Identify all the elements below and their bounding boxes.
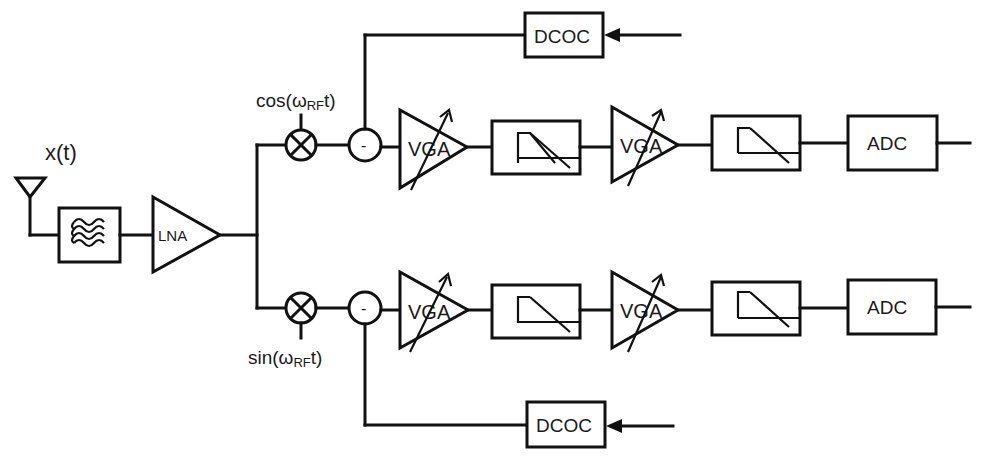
input-signal-label: x(t): [45, 140, 77, 165]
bandpass-filter-block: [59, 208, 120, 262]
i-dcoc-block: DCOC: [525, 13, 603, 57]
svg-text:-: -: [361, 137, 366, 154]
q-branch: sin(ωRFt) - DCOC VGA: [248, 272, 970, 447]
q-subtractor: -: [349, 292, 381, 324]
svg-text:VGA: VGA: [408, 138, 451, 160]
q-lowpass-filter-2: [712, 282, 800, 335]
i-mixer-icon: [286, 130, 316, 160]
i-adc-block: ADC: [848, 116, 937, 170]
q-lo-label: sin(ωRFt): [248, 347, 322, 370]
svg-text:ADC: ADC: [867, 297, 907, 318]
svg-text:-: -: [361, 300, 366, 317]
lna-amplifier: LNA: [153, 197, 220, 272]
i-vga2-amplifier: VGA: [612, 107, 678, 186]
q-dcoc-block: DCOC: [527, 402, 605, 447]
q-dcoc-input-arrow-icon: [606, 419, 673, 433]
antenna-icon: [16, 178, 58, 235]
i-dcoc-input-arrow-icon: [604, 28, 680, 42]
q-lowpass-filter-1: [492, 285, 580, 338]
svg-text:DCOC: DCOC: [536, 415, 592, 436]
lna-label: LNA: [158, 227, 187, 244]
i-vga1-amplifier: VGA: [400, 110, 467, 190]
svg-text:ADC: ADC: [867, 133, 907, 154]
i-lo-label: cos(ωRFt): [256, 90, 336, 113]
i-lowpass-filter-2: [712, 116, 800, 170]
q-vga1-amplifier: VGA: [400, 272, 468, 352]
i-lowpass-filter-1: [492, 121, 580, 174]
q-mixer-icon: [286, 293, 316, 323]
svg-text:VGA: VGA: [620, 300, 663, 322]
i-branch: cos(ωRFt) - DCOC VGA: [256, 13, 970, 190]
q-adc-block: ADC: [848, 280, 936, 334]
svg-text:DCOC: DCOC: [534, 26, 590, 47]
i-subtractor: -: [349, 129, 381, 161]
receiver-block-diagram: x(t) LNA cos(ωRFt): [0, 0, 985, 471]
q-vga2-amplifier: VGA: [612, 272, 678, 352]
